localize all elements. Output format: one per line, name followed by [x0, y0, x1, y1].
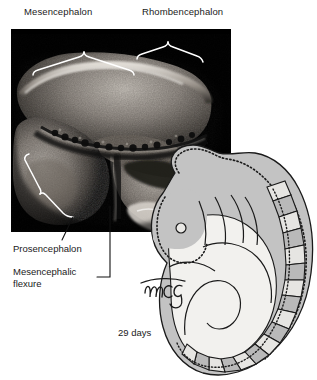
- label-prosencephalon: Prosencephalon: [13, 243, 82, 255]
- label-mesencephalic-flexure-line2: flexure: [13, 278, 76, 290]
- label-mesencephalic-flexure: Mesencephalic flexure: [13, 266, 76, 289]
- optic-vesicle: [176, 223, 186, 233]
- figure-panel: Mesencephalon Rhombencephalon Prosenceph…: [0, 0, 317, 380]
- label-mesencephalic-flexure-line1: Mesencephalic: [13, 266, 76, 278]
- label-rhombencephalon: Rhombencephalon: [142, 6, 223, 17]
- label-mesencephalon: Mesencephalon: [24, 6, 92, 17]
- embryo-orientation-diagram: [139, 139, 317, 380]
- label-embryo-age: 29 days: [118, 327, 151, 338]
